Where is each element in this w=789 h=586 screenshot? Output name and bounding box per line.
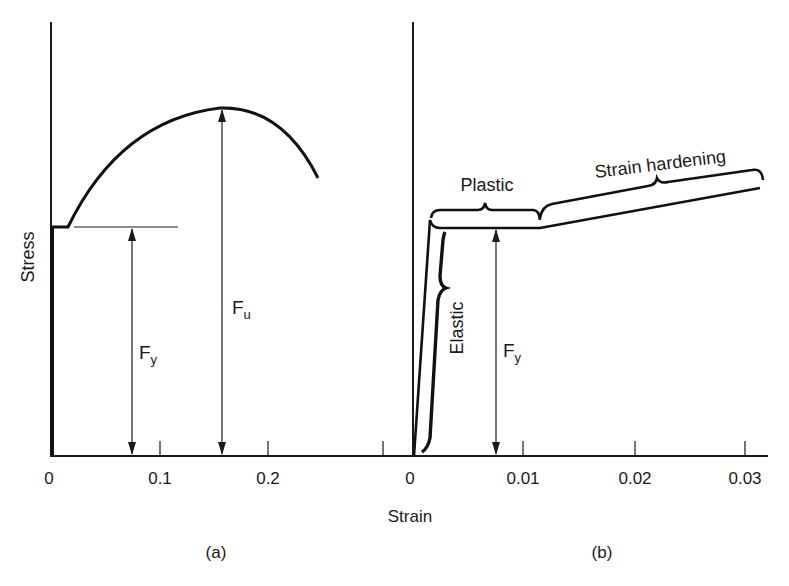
x-tick-label: 0 — [405, 469, 414, 488]
x-tick-label: 0.01 — [506, 469, 539, 488]
arrowhead-down-icon — [218, 442, 226, 455]
plastic-brace — [431, 203, 540, 220]
x-tick-label: 0.1 — [148, 469, 172, 488]
x-tick-label: 0 — [44, 469, 53, 488]
stress-strain-diagram: 0 0.1 0.2 Fy Fu Stress (a) — [0, 0, 789, 586]
elastic-label: Elastic — [447, 301, 467, 354]
x-tick-label: 0.02 — [618, 469, 651, 488]
x-tick-label: 0.03 — [728, 469, 761, 488]
y-axis-label: Stress — [18, 231, 38, 282]
arrowhead-down-icon — [492, 442, 500, 455]
stress-strain-curve-a — [52, 108, 318, 227]
x-axis-label: Strain — [388, 507, 432, 526]
x-tick-label: 0.2 — [256, 469, 280, 488]
fy-label-a: Fy — [139, 342, 158, 367]
panel-a: 0 0.1 0.2 Fy Fu Stress (a) — [18, 22, 768, 562]
panel-b: 0 0.01 0.02 0.03 Fy Elastic Plastic Stra… — [405, 22, 763, 562]
elastic-brace — [422, 232, 446, 452]
plastic-label: Plastic — [460, 175, 513, 195]
arrowhead-up-icon — [492, 229, 500, 242]
arrowhead-up-icon — [218, 109, 226, 122]
fu-label: Fu — [232, 297, 251, 322]
panel-label-b: (b) — [592, 543, 613, 562]
fy-label-b: Fy — [503, 340, 522, 365]
arrowhead-down-icon — [128, 442, 136, 455]
panel-label-a: (a) — [206, 543, 227, 562]
arrowhead-up-icon — [128, 228, 136, 241]
